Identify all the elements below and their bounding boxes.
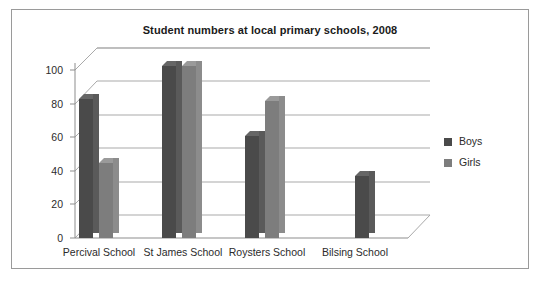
- bar-front: [99, 163, 113, 238]
- y-tick-100: 100: [29, 65, 63, 76]
- chart-title: Student numbers at local primary schools…: [12, 24, 528, 36]
- y-tick-40: 40: [29, 166, 63, 177]
- bar-front: [182, 66, 196, 238]
- y-tick-0: 0: [29, 233, 63, 244]
- bar-front: [265, 101, 279, 238]
- bar-front: [79, 99, 93, 238]
- bar-front: [355, 176, 369, 238]
- bar-side: [369, 171, 375, 233]
- legend-item-boys: Boys: [444, 131, 514, 152]
- bar-side: [113, 158, 119, 233]
- legend-item-girls: Girls: [444, 152, 514, 173]
- bar-front: [162, 66, 176, 238]
- bar-side: [279, 96, 285, 233]
- legend-label-boys: Boys: [459, 136, 482, 147]
- y-tick-60: 60: [29, 132, 63, 143]
- bar-front: [245, 136, 259, 238]
- legend-label-girls: Girls: [459, 157, 481, 168]
- y-tick-80: 80: [29, 99, 63, 110]
- legend-swatch-girls-icon: [444, 159, 452, 167]
- bar-side: [196, 61, 202, 233]
- x-tick-bilsing: Bilsing School: [300, 247, 410, 258]
- y-tick-20: 20: [29, 199, 63, 210]
- legend-swatch-boys-icon: [444, 138, 452, 146]
- chart-legend: Boys Girls: [444, 131, 514, 173]
